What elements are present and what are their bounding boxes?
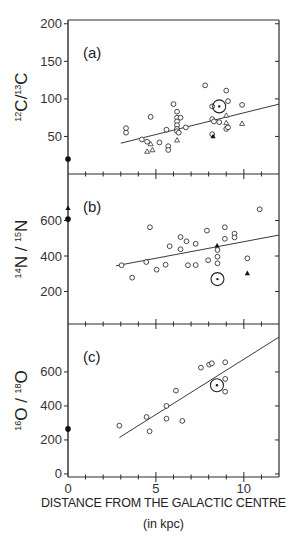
open-circle-marker [167,244,172,249]
y-tick-label: 0 [55,466,62,481]
panel-a: 50100150200(a)12C/13C [12,16,279,179]
open-circle-marker [203,83,208,88]
open-circle-marker [257,207,262,212]
open-circle-marker [164,416,169,421]
y-tick-label: 400 [40,249,62,264]
y-axis-label: 14N / 15N [12,220,31,279]
panel-c: 0200400600(c)16O / 18O [12,324,279,482]
open-circle-marker [157,140,162,145]
sun-marker-dot [216,384,218,386]
open-circle-marker [240,102,245,107]
x-tick-label: 5 [152,481,159,496]
open-circle-marker [178,247,183,252]
open-circle-marker [186,263,191,268]
sun-marker-dot [218,105,220,107]
filled-triangle-marker [215,243,220,248]
open-circle-marker [139,137,144,142]
open-circle-marker [212,119,217,124]
open-circle-marker [176,130,181,135]
open-circle-marker [223,360,228,365]
open-circle-marker [223,389,228,394]
filled-circle-marker [65,216,71,222]
open-circle-marker [180,419,185,424]
open-triangle-marker [175,138,180,142]
y-tick-label: 50 [48,129,62,144]
open-circle-marker [215,254,220,259]
y-axis-label: 12C/13C [12,72,31,121]
figure: 50100150200(a)12C/13C 200400600(b)14N / … [0,0,299,547]
open-circle-marker [183,125,188,130]
filled-circle-marker [65,426,71,432]
y-tick-label: 100 [40,91,62,106]
open-circle-marker [144,415,149,420]
x-tick-label: 10 [237,481,251,496]
open-circle-marker [226,125,231,130]
x-tick-label: 0 [64,481,71,496]
filled-triangle-marker [65,205,70,210]
fit-line [119,337,279,437]
open-circle-marker [164,404,169,409]
open-triangle-marker [150,147,155,151]
open-circle-marker [215,248,220,253]
open-circle-marker [209,361,214,366]
open-circle-marker [148,115,153,120]
open-circle-marker [147,429,152,434]
open-circle-marker [166,148,171,153]
filled-circle-marker [65,156,71,162]
panel-b: 200400600(b)14N / 15N [12,174,279,329]
y-tick-label: 400 [40,398,62,413]
y-tick-label: 200 [40,16,62,31]
open-circle-marker [245,256,250,261]
open-circle-marker [164,127,169,132]
open-circle-marker [206,258,211,263]
open-circle-marker [175,109,180,114]
y-tick-label: 200 [40,284,62,299]
open-triangle-marker [224,113,229,117]
open-circle-marker [193,263,198,268]
open-circle-marker [145,139,150,144]
open-circle-marker [223,377,228,382]
y-axis-label: 16O / 18O [12,370,31,431]
x-axis-title: DISTANCE FROM THE GALACTIC CENTRE [28,496,299,510]
fit-line [116,235,279,266]
open-circle-marker [184,239,189,244]
x-axis-units: (in kpc) [28,517,299,531]
open-circle-marker [217,120,222,125]
open-circle-marker [199,365,204,370]
open-circle-marker [224,88,229,93]
open-circle-marker [222,236,227,241]
y-tick-label: 600 [40,213,62,228]
filled-triangle-marker [245,271,250,276]
panel-label: (b) [83,198,101,215]
open-circle-marker [124,130,129,135]
open-circle-marker [178,235,183,240]
x-tick-labels: 0510 [64,481,251,496]
open-circle-marker [144,260,149,265]
open-circle-marker [171,102,176,107]
open-circle-marker [178,115,183,120]
open-circle-marker [193,241,198,246]
open-circle-marker [222,225,227,230]
open-circle-marker [205,228,210,233]
open-circle-marker [148,225,153,230]
open-circle-marker [119,263,124,268]
sun-marker-dot [216,278,218,280]
open-circle-marker [215,261,220,266]
open-circle-marker [130,275,135,280]
open-circle-marker [154,267,159,272]
open-triangle-marker [145,149,150,153]
y-tick-label: 600 [40,364,62,379]
panel-label: (c) [83,348,101,365]
fit-line [121,104,279,143]
open-circle-marker [232,235,237,240]
open-circle-marker [117,423,122,428]
open-circle-marker [163,262,168,267]
y-tick-label: 150 [40,54,62,69]
y-tick-label: 200 [40,432,62,447]
panel-label: (a) [83,44,101,61]
open-triangle-marker [224,120,229,124]
open-circle-marker [226,99,231,104]
open-triangle-marker [240,121,245,125]
open-circle-marker [174,388,179,393]
